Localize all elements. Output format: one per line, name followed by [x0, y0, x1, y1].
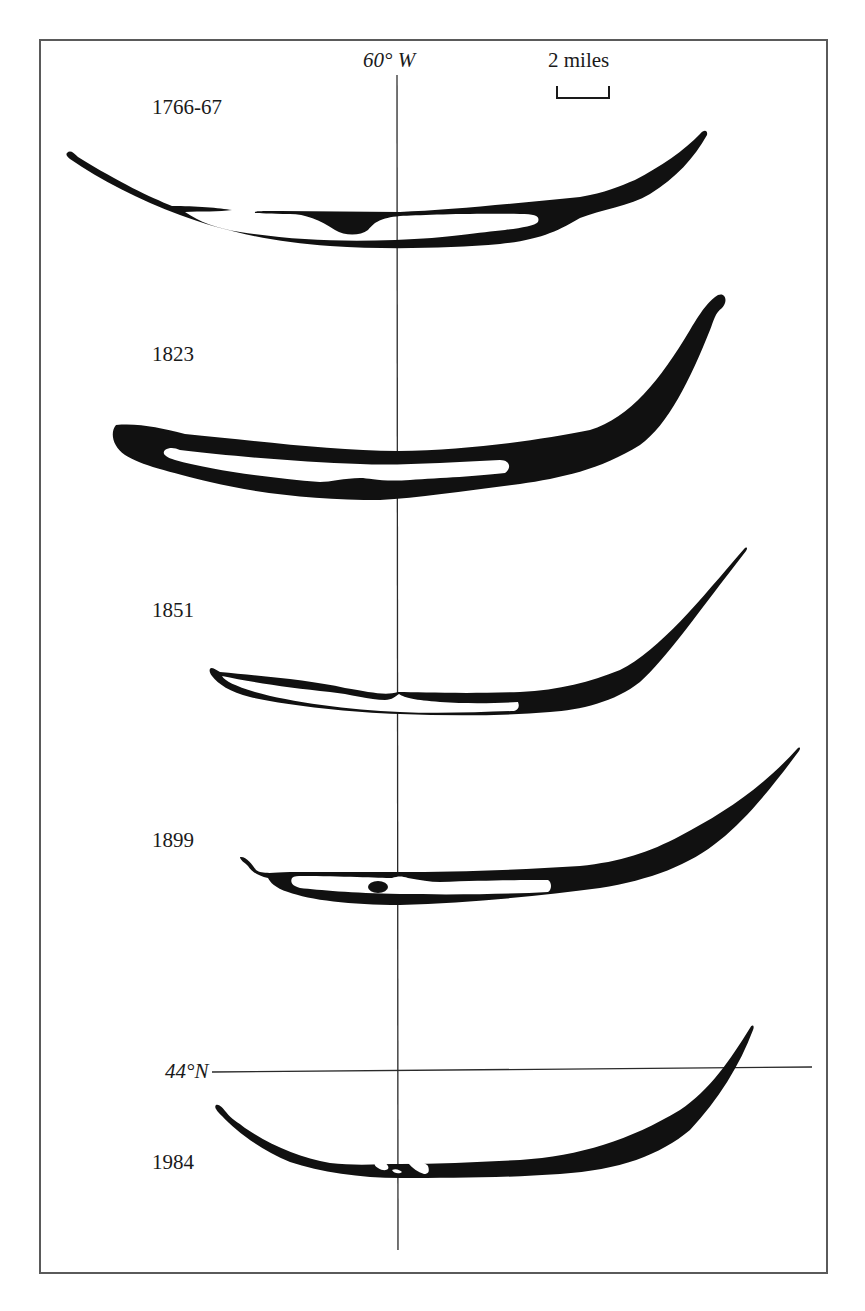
year-label-1823: 1823: [152, 344, 194, 365]
year-label-1984: 1984: [152, 1152, 194, 1173]
parallel-label: 44°N: [165, 1061, 208, 1082]
meridian-line: [397, 75, 398, 1250]
scale-bar: [557, 86, 609, 98]
island-1899: [240, 748, 800, 905]
island-1766-67: [66, 131, 707, 248]
island-1984: [215, 1026, 753, 1178]
year-label-1766-67: 1766-67: [152, 97, 222, 118]
meridian-label: 60° W: [363, 50, 415, 71]
island-map: [0, 0, 865, 1311]
island-1851: [210, 548, 747, 716]
year-label-1851: 1851: [152, 600, 194, 621]
scale-bar-label: 2 miles: [548, 50, 609, 71]
year-label-1899: 1899: [152, 830, 194, 851]
island-1823: [113, 294, 726, 500]
